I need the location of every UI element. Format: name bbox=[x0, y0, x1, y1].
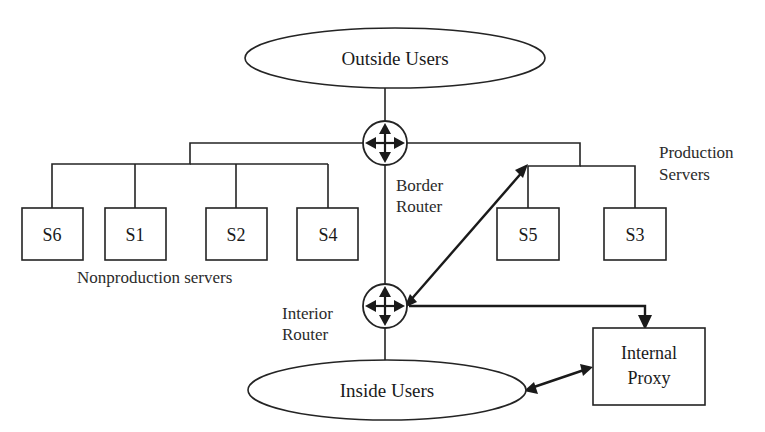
server-box-s4[interactable]: S4 bbox=[297, 208, 358, 260]
s3-label: S3 bbox=[625, 225, 644, 245]
network-diagram: Outside Users Border Router Interior Rou… bbox=[0, 0, 765, 432]
node-border-router[interactable]: Border Router bbox=[363, 121, 444, 216]
nonproduction-servers-group-label: Nonproduction servers bbox=[77, 268, 232, 287]
edge-drop-s3 bbox=[580, 166, 635, 208]
server-box-s6[interactable]: S6 bbox=[22, 208, 83, 260]
edge-border-router-to-nonproduction-bus bbox=[52, 143, 363, 208]
edge-inside-users-to-internal-proxy bbox=[531, 369, 587, 388]
interior-router-label-line1: Interior bbox=[282, 304, 333, 323]
server-group-production: S5 S3 Production Servers bbox=[497, 143, 734, 260]
arrowhead-to-internal-proxy-left bbox=[580, 364, 593, 376]
inside-users-label: Inside Users bbox=[340, 380, 434, 401]
internal-proxy-rect bbox=[593, 328, 705, 405]
s2-label: S2 bbox=[226, 225, 245, 245]
internal-proxy-label-line2: Proxy bbox=[627, 368, 670, 388]
server-box-s3[interactable]: S3 bbox=[604, 208, 666, 260]
node-inside-users[interactable]: Inside Users bbox=[248, 360, 526, 420]
s5-label: S5 bbox=[518, 225, 537, 245]
node-internal-proxy[interactable]: Internal Proxy bbox=[593, 328, 705, 405]
server-group-nonproduction: S6 S1 S2 S4 Nonproduction servers bbox=[22, 208, 358, 287]
interior-router-label-line2: Router bbox=[282, 325, 329, 344]
production-servers-group-label-line1: Production bbox=[659, 143, 734, 162]
production-servers-group-label-line2: Servers bbox=[659, 165, 710, 184]
s1-label: S1 bbox=[125, 225, 144, 245]
arrowhead-to-s5 bbox=[515, 164, 528, 178]
server-box-s1[interactable]: S1 bbox=[105, 208, 166, 260]
edge-interior-router-to-internal-proxy bbox=[409, 306, 645, 320]
s4-label: S4 bbox=[318, 225, 337, 245]
internal-proxy-label-line1: Internal bbox=[621, 343, 677, 363]
node-outside-users[interactable]: Outside Users bbox=[245, 28, 545, 88]
server-box-s2[interactable]: S2 bbox=[206, 208, 267, 260]
border-router-label-line2: Router bbox=[396, 197, 443, 216]
outside-users-label: Outside Users bbox=[341, 48, 448, 69]
s6-label: S6 bbox=[42, 225, 61, 245]
network-diagram-canvas: Outside Users Border Router Interior Rou… bbox=[0, 0, 765, 432]
border-router-label-line1: Border bbox=[396, 176, 444, 195]
server-box-s5[interactable]: S5 bbox=[497, 208, 559, 260]
node-interior-router[interactable]: Interior Router bbox=[282, 284, 407, 344]
